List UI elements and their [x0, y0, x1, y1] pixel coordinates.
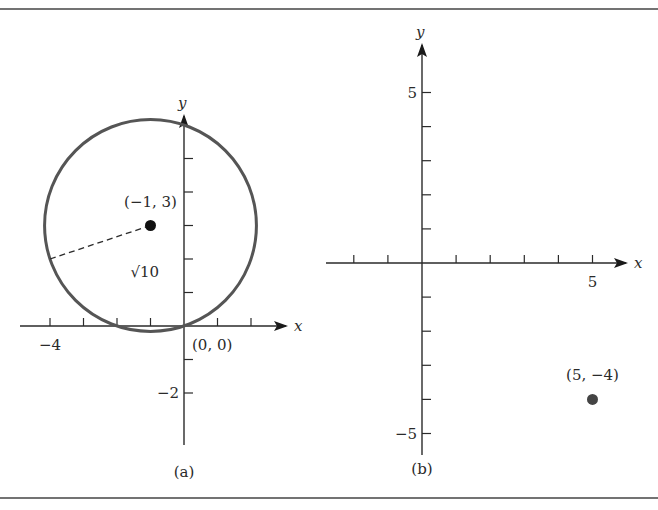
x-tick-label: −4	[39, 336, 61, 354]
figure: x y −4 −2 √10 (−1, 3) (0, 0) (a) x y 5 5…	[0, 0, 658, 510]
panel-b-caption: (b)	[411, 460, 432, 478]
y-axis-label: y	[415, 23, 425, 41]
x-ticks	[354, 255, 593, 263]
y-tick-label: 5	[407, 84, 417, 102]
data-point	[587, 394, 598, 405]
panel-a-plot: x y −4 −2 √10 (−1, 3) (0, 0) (a)	[20, 94, 303, 481]
y-tick-label: −2	[157, 384, 179, 402]
x-ticks	[50, 318, 251, 326]
center-point	[145, 220, 156, 231]
center-point-label: (−1, 3)	[124, 193, 177, 211]
radius-label: √10	[130, 263, 159, 281]
x-axis-label: x	[294, 317, 303, 335]
radius-dashed-line	[50, 226, 151, 260]
panel-b-plot: x y 5 5 −5 (5, −4) (b)	[326, 23, 643, 478]
y-axis-label: y	[177, 94, 187, 112]
panel-a-caption: (a)	[174, 463, 195, 481]
y-ticks	[184, 159, 193, 394]
origin-point-label: (0, 0)	[192, 336, 232, 354]
x-tick-label: 5	[588, 273, 598, 291]
data-point-label: (5, −4)	[566, 366, 619, 384]
y-tick-label: −5	[395, 425, 417, 443]
x-axis-label: x	[634, 254, 643, 272]
